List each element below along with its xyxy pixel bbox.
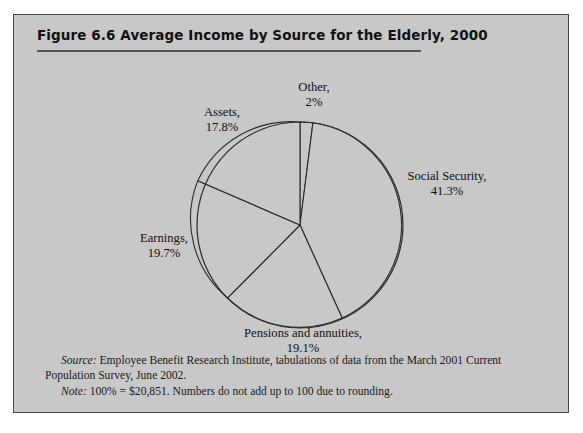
figure-rounding-note: Note: 100% = $20,851. Numbers do not add… [45, 384, 545, 399]
pie-label-assets-value: 17.8% [204, 120, 240, 135]
note-text: 100% = $20,851. Numbers do not add up to… [87, 385, 393, 398]
pie-label-social-security: Social Security, 41.3% [408, 169, 487, 199]
figure-frame: Figure 6.6 Average Income by Source for … [13, 14, 569, 413]
pie-label-earnings: Earnings, 19.7% [140, 231, 188, 261]
source-text: Employee Benefit Research Institute, tab… [45, 354, 501, 382]
pie-label-earnings-value: 19.7% [140, 246, 188, 261]
pie-label-assets: Assets, 17.8% [204, 105, 240, 135]
pie-chart-svg [14, 59, 570, 349]
pie-label-earnings-name: Earnings, [140, 231, 188, 246]
pie-label-pensions-annuities-name: Pensions and annuities, [244, 326, 362, 341]
pie-chart: Other, 2% Assets, 17.8% Social Security,… [14, 59, 570, 349]
pie-label-other-value: 2% [298, 95, 329, 110]
pie-label-pensions-annuities: Pensions and annuities, 19.1% [244, 326, 362, 356]
figure-source-note: Source: Employee Benefit Research Instit… [45, 353, 545, 384]
pie-label-other-name: Other, [298, 80, 329, 95]
pie-label-other: Other, 2% [298, 80, 329, 110]
figure-title: Figure 6.6 Average Income by Source for … [37, 27, 488, 43]
figure-notes: Source: Employee Benefit Research Instit… [45, 353, 545, 399]
pie-label-social-security-value: 41.3% [408, 184, 487, 199]
note-keyword: Note: [61, 385, 87, 398]
pie-label-social-security-name: Social Security, [408, 169, 487, 184]
pie-label-assets-name: Assets, [204, 105, 240, 120]
title-divider [37, 50, 421, 52]
source-keyword: Source: [61, 354, 97, 367]
